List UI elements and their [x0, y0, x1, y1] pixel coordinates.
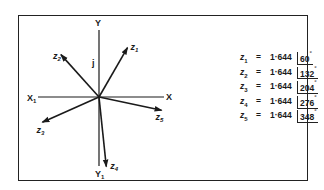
phasor-label-z5: z5 — [155, 112, 165, 123]
negative-y-axis-label: Y1 — [95, 169, 105, 180]
phasor-arrows: z1z2z3z4z5 — [35, 42, 164, 172]
equals-sign: = — [256, 79, 261, 94]
phasor-arrow-z3 — [42, 97, 99, 122]
j-label: j — [91, 58, 95, 68]
equals-sign: = — [256, 94, 261, 109]
equation-magnitude: 1·644 — [270, 108, 292, 123]
phasor-label-z1: z1 — [130, 42, 140, 53]
negative-x-axis-label: X1 — [27, 93, 37, 104]
phasor-arrow-z1 — [99, 48, 128, 97]
phasor-label-z3: z3 — [35, 125, 45, 136]
equation-angle: 132° — [297, 67, 318, 80]
equation-angle: 276° — [297, 96, 318, 109]
equation-magnitude: 1·644 — [270, 65, 292, 80]
phasor-label-z4: z4 — [109, 161, 119, 172]
equation-magnitude: 1·644 — [270, 94, 292, 109]
equals-sign: = — [256, 65, 261, 80]
equation-variable: z5 — [240, 108, 248, 126]
equation-angle: 348° — [297, 110, 318, 123]
equation-magnitude: 1·644 — [270, 79, 292, 94]
equals-sign: = — [256, 108, 261, 123]
phasor-arrow-z4 — [99, 97, 106, 167]
phasor-label-z2: z2 — [52, 51, 62, 62]
x-axis-label: X — [166, 92, 172, 102]
equation-angle: 60° — [297, 52, 313, 65]
y-axis-label: Y — [95, 18, 101, 28]
equation-angle: 204° — [297, 81, 318, 94]
phasor-arrow-z5 — [99, 97, 162, 110]
equals-sign: = — [256, 50, 261, 65]
equation-magnitude: 1·644 — [270, 50, 292, 65]
